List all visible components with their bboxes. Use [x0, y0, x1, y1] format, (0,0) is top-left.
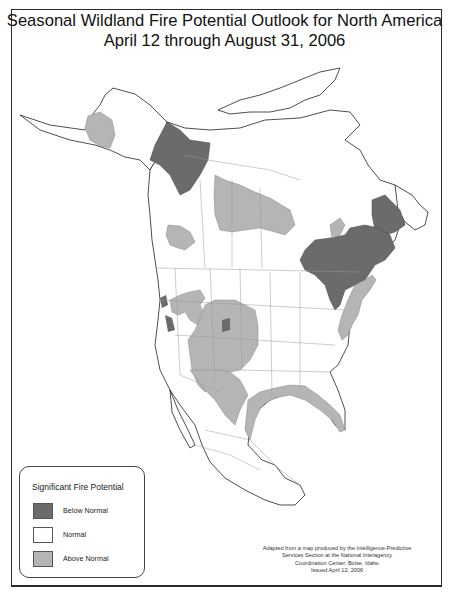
credit-line-4: Issued April 12, 2006 — [232, 567, 442, 574]
source-credit: Adapted from a map produced by the Intel… — [232, 545, 442, 574]
legend-title: Significant Fire Potential — [32, 482, 124, 492]
legend: Significant Fire Potential Below Normal … — [19, 466, 145, 578]
above-normal-swatch — [33, 551, 53, 567]
credit-line-1: Adapted from a map produced by the Intel… — [232, 545, 442, 552]
legend-label: Normal — [63, 530, 86, 539]
legend-label: Below Normal — [63, 506, 108, 515]
legend-item-above-normal: Above Normal — [33, 551, 143, 568]
legend-label: Above Normal — [63, 554, 109, 563]
normal-swatch — [33, 527, 53, 543]
legend-item-normal: Normal — [33, 527, 143, 544]
credit-line-2: Services Section at the National Interag… — [232, 552, 442, 559]
below-normal-swatch — [33, 503, 53, 519]
legend-item-below-normal: Below Normal — [33, 503, 143, 520]
credit-line-3: Coordination Center, Boise, Idaho — [232, 560, 442, 567]
